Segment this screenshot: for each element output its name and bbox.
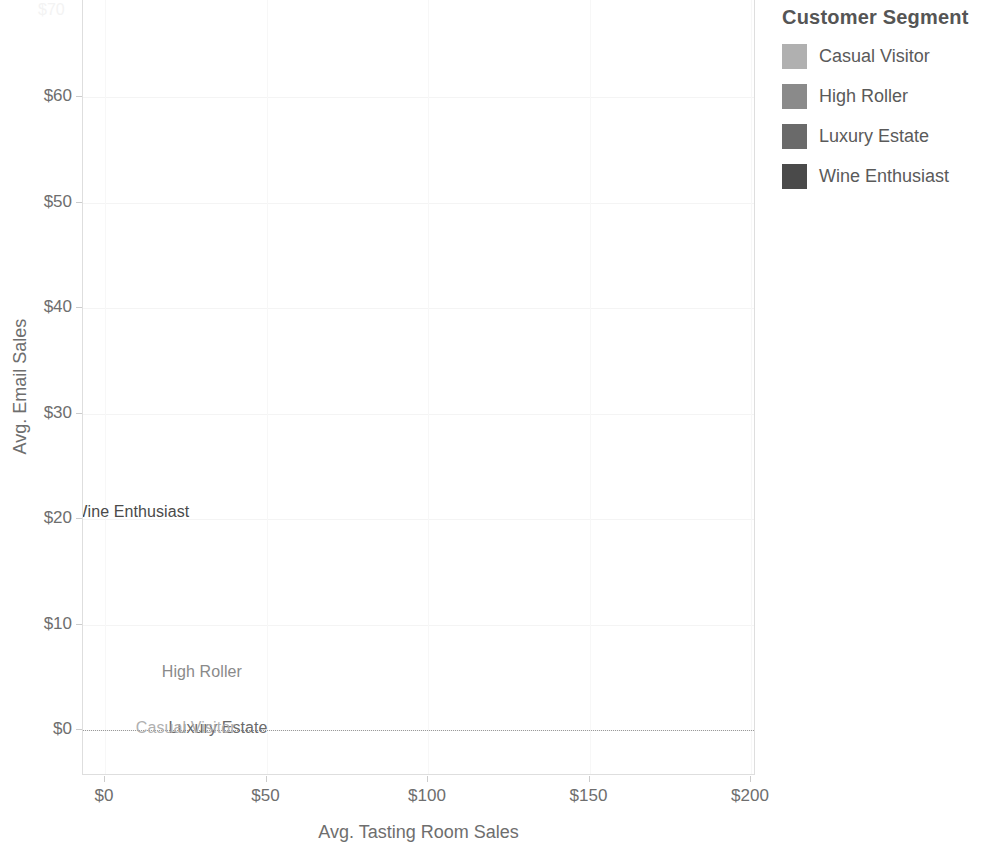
x-tick-label: $100 bbox=[408, 786, 446, 806]
y-axis-title: Avg. Email Sales bbox=[10, 187, 31, 587]
legend-item-label: Casual Visitor bbox=[819, 46, 930, 67]
x-tick-label: $0 bbox=[95, 786, 114, 806]
y-tick-mark bbox=[76, 413, 82, 414]
gridline-vertical bbox=[105, 0, 106, 774]
gridline-horizontal bbox=[83, 625, 754, 626]
y-tick-mark bbox=[76, 202, 82, 203]
legend-item[interactable]: High Roller bbox=[782, 76, 1002, 116]
legend-swatch-icon bbox=[782, 164, 807, 189]
legend-title: Customer Segment bbox=[782, 6, 1002, 29]
x-tick-label: $50 bbox=[251, 786, 279, 806]
y-tick-mark bbox=[76, 307, 82, 308]
x-tick-mark bbox=[266, 776, 267, 782]
gridline-vertical bbox=[267, 0, 268, 774]
y-tick-label: $40 bbox=[44, 297, 72, 317]
gridline-horizontal bbox=[83, 203, 754, 204]
gridline-vertical bbox=[590, 0, 591, 774]
legend-items: Casual VisitorHigh RollerLuxury EstateWi… bbox=[782, 36, 1002, 196]
plot-area: Wine EnthusiastHigh RollerLuxury EstateC… bbox=[82, 0, 755, 775]
legend-swatch-icon bbox=[782, 124, 807, 149]
gridline-horizontal bbox=[83, 308, 754, 309]
x-tick-label: $200 bbox=[731, 786, 769, 806]
y-tick-label: $0 bbox=[53, 719, 72, 739]
y-tick-label: $10 bbox=[44, 614, 72, 634]
legend-swatch-icon bbox=[782, 84, 807, 109]
x-tick-label: $150 bbox=[570, 786, 608, 806]
data-point-label: Casual Visitor bbox=[136, 720, 236, 736]
gridline-vertical bbox=[751, 0, 752, 774]
y-tick-label: $20 bbox=[44, 508, 72, 528]
x-tick-mark bbox=[427, 776, 428, 782]
gridline-horizontal bbox=[83, 97, 754, 98]
x-tick-mark bbox=[104, 776, 105, 782]
data-point-label: High Roller bbox=[162, 664, 242, 680]
x-axis-title: Avg. Tasting Room Sales bbox=[82, 822, 755, 843]
legend-item[interactable]: Luxury Estate bbox=[782, 116, 1002, 156]
legend-item[interactable]: Casual Visitor bbox=[782, 36, 1002, 76]
y-tick-mark bbox=[76, 729, 82, 730]
y-tick-label: $60 bbox=[44, 86, 72, 106]
legend-item[interactable]: Wine Enthusiast bbox=[782, 156, 1002, 196]
x-tick-mark bbox=[589, 776, 590, 782]
legend-swatch-icon bbox=[782, 44, 807, 69]
gridline-horizontal bbox=[83, 414, 754, 415]
legend-item-label: Luxury Estate bbox=[819, 126, 929, 147]
x-tick-mark bbox=[750, 776, 751, 782]
legend-item-label: High Roller bbox=[819, 86, 908, 107]
y-tick-mark bbox=[76, 96, 82, 97]
data-point-label: Wine Enthusiast bbox=[82, 504, 189, 520]
y-tick-label: $30 bbox=[44, 403, 72, 423]
scatter-chart: $70 Wine EnthusiastHigh RollerLuxury Est… bbox=[0, 0, 1005, 853]
y-tick-mark bbox=[76, 624, 82, 625]
legend: Customer Segment Casual VisitorHigh Roll… bbox=[782, 6, 1002, 196]
gridline-vertical bbox=[428, 0, 429, 774]
y-tick-label: $50 bbox=[44, 192, 72, 212]
legend-item-label: Wine Enthusiast bbox=[819, 166, 949, 187]
y-tick-mark bbox=[76, 518, 82, 519]
